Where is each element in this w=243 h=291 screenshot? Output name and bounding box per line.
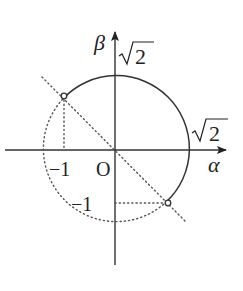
- sqrt2-top-label: 2: [119, 42, 154, 69]
- alpha-axis-label: α: [208, 152, 220, 177]
- open-point-lower-right: [165, 200, 171, 206]
- svg-text:2: 2: [209, 121, 220, 146]
- neg-one-beta-label: −1: [71, 193, 92, 215]
- sqrt2-right-label: 2: [192, 119, 228, 146]
- open-point-upper-left: [61, 93, 67, 99]
- solid-arc: [63, 76, 189, 202]
- svg-text:2: 2: [135, 44, 146, 69]
- neg-one-alpha-label: −1: [49, 158, 70, 180]
- circle-diagram: β α O 2 2 −1 −1: [0, 0, 243, 291]
- diagram-canvas: β α O 2 2 −1 −1: [0, 0, 243, 291]
- beta-axis-label: β: [93, 30, 105, 55]
- origin-label: O: [96, 158, 110, 180]
